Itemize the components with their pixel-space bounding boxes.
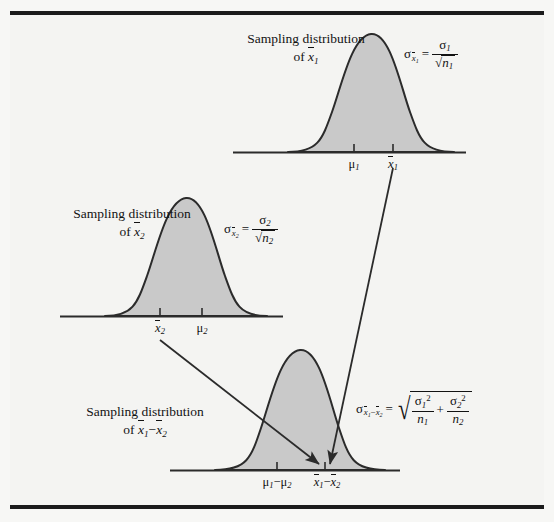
sampling-distribution-figure: Sampling distribution of x1 σ x1=σ1√n1 μ… [0,0,554,522]
formula-sigma-xbar2: σ x2=σ2√n2 [224,213,278,248]
formula-sigma-xbar1: σ x1=σ1√n1 [404,38,458,73]
caption-xbar1-x: x [308,48,314,66]
formula1-equals: = [419,46,432,61]
caption-diff-x2-sub: 2 [162,429,167,439]
formula1-sigma: σ [404,46,411,61]
ticklabel-mu1-sub: 1 [355,162,359,172]
formula3-term2: σ22n2 [447,394,469,428]
caption-diff-x2: x [156,421,162,439]
caption-xbar1-line1: Sampling distribution [247,31,364,46]
formula3-sub-x2: x [376,407,380,417]
ticklabel-xbar-diff-minus: − [323,475,330,489]
ticklabel-xbar2-sub: 2 [161,326,165,336]
ticklabel-mu-diff-minus: − [273,475,280,489]
formula2-sub-x: x [232,228,236,238]
formula1-den-sub: 1 [449,62,453,72]
formula2-fraction: σ2√n2 [252,213,278,248]
caption-diff-minus: − [149,422,157,437]
caption-diff-line2: of x1−x2 [55,421,235,440]
ticklabel-mu1: μ1 [334,157,374,172]
formula3-t1-sup: 2 [426,393,430,403]
formula3-t2-n-sub: 2 [459,417,463,427]
ticklabel-xbar1-sub: 1 [394,162,398,172]
caption-xbar1-line2: of x1 [216,48,396,67]
caption-xbar2-x: x [134,223,140,241]
caption-diff: Sampling distribution of x1−x2 [55,403,235,440]
ticklabel-xbar-diff-x2: x [331,475,337,490]
formula3-t2-sigma: σ [450,393,457,408]
ticklabel-xbar2-main: x [155,321,161,336]
formula2-radical: √n2 [255,230,275,247]
ticklabel-mu2: μ2 [182,321,222,336]
caption-xbar2-of: of [119,224,134,239]
caption-xbar2-line1: Sampling distribution [73,206,190,221]
ticklabel-xbar-diff-x1: x [314,475,320,490]
formula3-t2-sup: 2 [461,393,465,403]
caption-xbar2-sub: 2 [140,231,145,241]
formula2-den-sub: 2 [269,237,273,247]
formula2-num-sub: 2 [266,218,270,228]
formula3-t1-sigma: σ [415,393,422,408]
formula-sigma-diff: σ x1−x2=√σ12n1+σ22n2 [356,391,472,428]
caption-xbar1-sub: 1 [314,56,319,66]
formula3-equals: = [383,401,396,416]
formula1-fraction: σ1√n1 [432,38,458,73]
formula3-t1-n-sub: 1 [424,417,428,427]
formula1-sub-x: x [412,53,416,63]
caption-diff-of: of [123,422,138,437]
caption-diff-line1: Sampling distribution [86,404,203,419]
ticklabel-xbar-diff: x1−x2 [290,475,364,490]
caption-diff-x1: x [138,421,144,439]
caption-xbar1: Sampling distribution of x1 [216,30,396,67]
formula3-radical-sign: √ [398,398,411,422]
caption-xbar2-line2: of x2 [42,223,222,242]
formula2-sigma: σ [224,221,231,236]
caption-xbar1-of: of [293,49,308,64]
ticklabel-xbar2: x2 [140,321,180,336]
caption-xbar2: Sampling distribution of x2 [42,205,222,242]
figure-graphics [0,0,554,522]
formula3-sub-x1: x [364,407,368,417]
ticklabel-xbar-diff-sub2: 2 [336,480,340,490]
ticklabel-xbar1-main: x [388,157,394,172]
formula3-term1: σ12n1 [412,394,434,428]
formula1-radical: √n1 [435,55,455,72]
formula1-num-sub: 1 [446,43,450,53]
formula3-sigma: σ [356,401,363,416]
formula3-radical: √σ12n1+σ22n2 [396,391,472,428]
formula2-equals: = [239,221,252,236]
formula3-plus: + [434,402,447,417]
ticklabel-mu2-sub: 2 [203,326,207,336]
ticklabel-xbar1: x1 [373,157,413,172]
